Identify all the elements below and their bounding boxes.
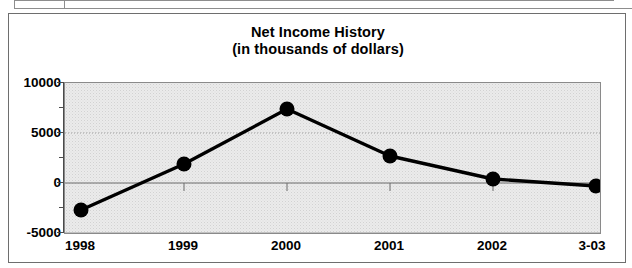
net-income-history-chart: Net Income History (in thousands of doll… xyxy=(8,13,626,263)
y-axis-tick-0 xyxy=(57,182,64,183)
table-fragment-left-edge xyxy=(14,0,15,9)
table-fragment-column-divider xyxy=(64,0,65,9)
data-line-net-income xyxy=(81,109,596,210)
plot-svg xyxy=(65,83,600,233)
y-axis-tick-10000 xyxy=(57,82,64,83)
chart-subtitle: (in thousands of dollars) xyxy=(9,41,627,58)
x-tick-label-1998: 1998 xyxy=(65,238,95,253)
data-point-2002 xyxy=(486,172,501,187)
x-tick-label-2001: 2001 xyxy=(374,238,404,253)
y-tick-label-0: 0 xyxy=(9,175,61,190)
x-tick-label-2002: 2002 xyxy=(477,238,507,253)
x-tick-label-3-03: 3-03 xyxy=(578,238,605,253)
plot-area xyxy=(64,82,601,234)
y-tick-label-minus5000: -5000 xyxy=(9,225,61,240)
x-tick-label-2000: 2000 xyxy=(271,238,301,253)
y-axis-tick-minus5000 xyxy=(57,232,64,233)
data-point-3-03 xyxy=(589,179,601,194)
data-point-1998 xyxy=(74,203,89,218)
x-axis-labels: 1998 1999 2000 2001 2002 3-03 xyxy=(64,238,599,262)
x-tick-label-1999: 1999 xyxy=(168,238,198,253)
y-axis-tick-5000 xyxy=(57,132,64,133)
table-fragment-bottom-rule xyxy=(14,8,632,9)
chart-title-block: Net Income History (in thousands of doll… xyxy=(9,24,627,58)
scanned-table-fragment xyxy=(0,0,632,11)
y-axis-labels: 10000 5000 0 -5000 xyxy=(9,14,61,264)
x-axis-minor-ticks xyxy=(184,183,493,191)
table-fragment-top-rule xyxy=(14,0,614,1)
chart-title: Net Income History xyxy=(9,24,627,41)
data-point-1999 xyxy=(177,157,192,172)
data-point-2001 xyxy=(383,149,398,164)
data-point-2000 xyxy=(280,102,295,117)
y-tick-label-10000: 10000 xyxy=(9,75,61,90)
data-markers xyxy=(74,102,601,218)
y-tick-label-5000: 5000 xyxy=(9,125,61,140)
